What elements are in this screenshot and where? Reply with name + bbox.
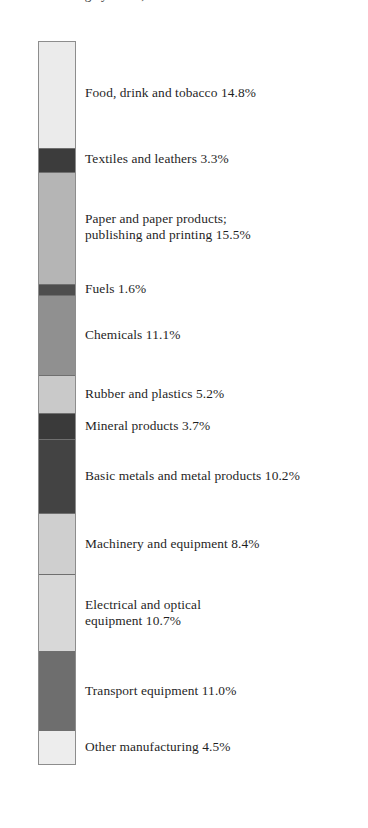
segment-label-paper-publishing-printing: Paper and paper products; publishing and…: [85, 211, 363, 244]
bar-segment-chemicals: [39, 296, 75, 376]
stacked-bar-chart: Food, drink and tobacco 14.8%Textiles an…: [0, 0, 368, 828]
bar-segment-electrical-optical-equipment: [39, 575, 75, 652]
segment-label-food-drink-tobacco: Food, drink and tobacco 14.8%: [85, 85, 363, 102]
segment-label-fuels: Fuels 1.6%: [85, 281, 363, 298]
bar-segment-food-drink-tobacco: [39, 42, 75, 149]
segment-label-rubber-plastics: Rubber and plastics 5.2%: [85, 386, 363, 403]
stacked-bar: [38, 41, 76, 765]
segment-label-machinery-equipment: Machinery and equipment 8.4%: [85, 536, 363, 553]
bar-segment-mineral-products: [39, 414, 75, 441]
bar-segment-basic-metals: [39, 440, 75, 514]
bar-segment-fuels: [39, 285, 75, 297]
segment-label-other-manufacturing: Other manufacturing 4.5%: [85, 739, 363, 756]
bar-segment-transport-equipment: [39, 652, 75, 731]
bar-segment-machinery-equipment: [39, 514, 75, 575]
segment-label-transport-equipment: Transport equipment 11.0%: [85, 683, 363, 700]
segment-label-electrical-optical-equipment: Electrical and optical equipment 10.7%: [85, 597, 363, 630]
segment-label-chemicals: Chemicals 11.1%: [85, 327, 363, 344]
bar-segment-rubber-plastics: [39, 376, 75, 414]
segment-label-basic-metals: Basic metals and metal products 10.2%: [85, 468, 363, 485]
segment-label-textiles-leathers: Textiles and leathers 3.3%: [85, 151, 363, 168]
bar-segment-textiles-leathers: [39, 149, 75, 173]
bar-segment-other-manufacturing: [39, 731, 75, 763]
bar-segment-paper-publishing-printing: [39, 173, 75, 285]
segment-label-mineral-products: Mineral products 3.7%: [85, 418, 363, 435]
